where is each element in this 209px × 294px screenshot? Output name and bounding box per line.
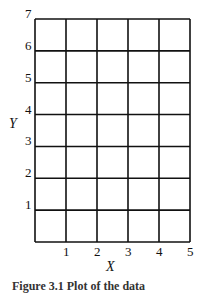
x-axis-label: X bbox=[106, 259, 115, 275]
y-tick-label: 2 bbox=[25, 166, 32, 179]
x-tick-label: 3 bbox=[125, 245, 132, 258]
x-tick-label: 4 bbox=[156, 245, 163, 258]
x-tick-label: 2 bbox=[94, 245, 101, 258]
figure-caption: Figure 3.1 Plot of the data bbox=[12, 279, 145, 294]
y-tick-label: 5 bbox=[25, 71, 32, 84]
y-axis-label: Y bbox=[9, 116, 17, 132]
grid-lines bbox=[35, 19, 190, 242]
y-tick-label: 6 bbox=[25, 39, 32, 52]
y-tick-label: 1 bbox=[25, 198, 32, 211]
y-tick-label: 3 bbox=[25, 134, 32, 147]
x-tick-label: 5 bbox=[187, 245, 194, 258]
y-tick-label: 7 bbox=[25, 7, 32, 20]
x-tick-label: 1 bbox=[63, 245, 70, 258]
y-tick-label: 4 bbox=[25, 103, 32, 116]
